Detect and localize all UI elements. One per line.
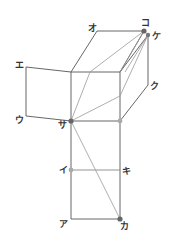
point-sa [68, 118, 73, 123]
label-u: ウ [15, 115, 24, 125]
cube-net-diagram: オ コ ケ エ ク ウ サ イ キ ア カ [0, 0, 170, 242]
line-ke-mid [125, 35, 148, 72]
point-i [69, 168, 74, 173]
face-top [71, 31, 144, 72]
label-ke: ケ [152, 31, 161, 41]
point-right-mid [118, 119, 123, 124]
label-ko: コ [141, 18, 150, 28]
point-ke [146, 33, 150, 37]
label-e: エ [15, 60, 24, 70]
face-left [26, 67, 71, 121]
label-sa: サ [58, 120, 67, 130]
label-ki: キ [122, 166, 131, 176]
label-ku: ク [150, 81, 159, 91]
square-front [71, 72, 120, 121]
label-i: イ [59, 165, 68, 175]
label-a: ア [59, 219, 68, 229]
label-o: オ [88, 23, 97, 33]
label-ka: カ [120, 221, 129, 231]
line-sa-ke [71, 96, 120, 121]
line-sa-ko [71, 72, 90, 121]
point-ko [141, 28, 146, 33]
